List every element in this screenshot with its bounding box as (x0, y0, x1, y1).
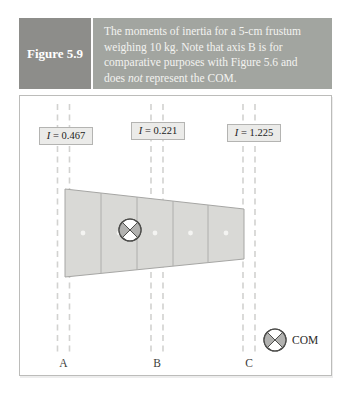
inertia-value-box-a: I = 0.467 (39, 127, 93, 145)
figure-header: Figure 5.9 The moments of inertia for a … (19, 18, 332, 89)
axis-c-label: C (245, 357, 253, 369)
inertia-value-a: = 0.467 (50, 130, 85, 141)
axis-b-label: B (153, 357, 161, 369)
inertia-value-b: = 0.221 (142, 125, 177, 136)
inertia-value-box-b: I = 0.221 (131, 122, 185, 140)
inertia-value-c: = 1.225 (238, 127, 273, 138)
com-legend-icon (264, 329, 286, 351)
caption-text-post: represent the COM. (143, 72, 237, 84)
figure-5-9: Figure 5.9 The moments of inertia for a … (0, 0, 348, 405)
caption-text-italic: not (128, 72, 143, 84)
diagram-panel: A B C COM I = 0.467 I = 0.221 I = 1.225 (19, 95, 332, 376)
inertia-value-box-c: I = 1.225 (227, 124, 281, 142)
com-legend-label: COM (292, 334, 318, 346)
figure-number-label: Figure 5.9 (19, 18, 91, 89)
axis-a-label: A (59, 357, 68, 369)
figure-caption: The moments of inertia for a 5-cm frustu… (93, 18, 332, 89)
com-marker (119, 219, 141, 241)
